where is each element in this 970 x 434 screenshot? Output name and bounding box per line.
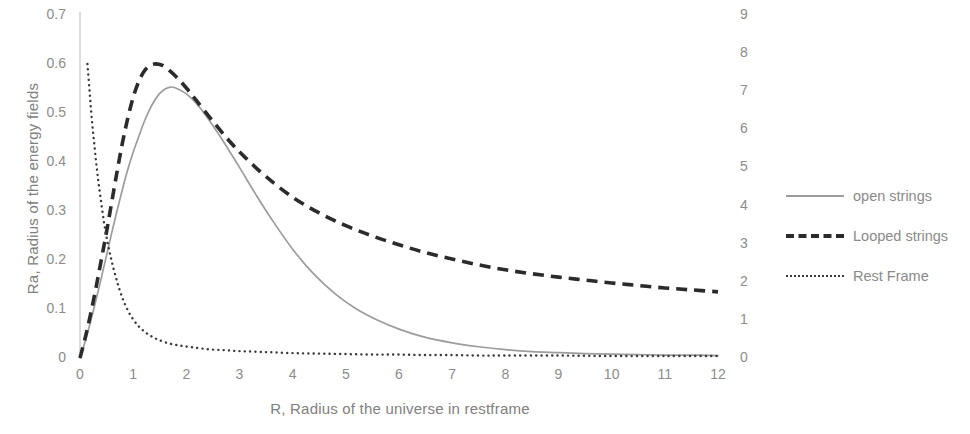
x-tick-12: 12 bbox=[703, 366, 733, 382]
legend-item-rest-frame[interactable]: Rest Frame bbox=[786, 256, 966, 296]
x-tick-9: 9 bbox=[544, 366, 574, 382]
y-tick-right-6: 6 bbox=[740, 120, 780, 136]
series-line-rest-frame bbox=[87, 64, 718, 356]
y-axis-title-left: Ra, Radius of the energy fields bbox=[24, 39, 41, 339]
x-tick-5: 5 bbox=[331, 366, 361, 382]
x-tick-11: 11 bbox=[650, 366, 680, 382]
series-line-open-strings bbox=[80, 87, 718, 358]
y-tick-right-5: 5 bbox=[740, 158, 780, 174]
legend-label-looped-strings: Looped strings bbox=[853, 228, 948, 244]
x-tick-1: 1 bbox=[118, 366, 148, 382]
legend-label-rest-frame: Rest Frame bbox=[853, 268, 929, 284]
x-tick-7: 7 bbox=[437, 366, 467, 382]
y-tick-right-9: 9 bbox=[740, 6, 780, 22]
y-tick-left-2: 0.2 bbox=[26, 251, 66, 267]
chart-legend: open strings Looped strings Rest Frame bbox=[786, 176, 966, 296]
y-tick-right-1: 1 bbox=[740, 311, 780, 327]
x-tick-10: 10 bbox=[597, 366, 627, 382]
y-tick-right-3: 3 bbox=[740, 235, 780, 251]
y-tick-left-0: 0 bbox=[26, 349, 66, 365]
y-tick-right-0: 0 bbox=[740, 349, 780, 365]
chart-figure: Ra, Radius of the energy fields R, Radiu… bbox=[0, 0, 970, 434]
y-tick-right-4: 4 bbox=[740, 197, 780, 213]
y-tick-left-6: 0.6 bbox=[26, 55, 66, 71]
y-tick-right-2: 2 bbox=[740, 273, 780, 289]
legend-line-dashed-icon bbox=[786, 230, 844, 242]
x-tick-0: 0 bbox=[65, 366, 95, 382]
series-line-looped-strings bbox=[80, 64, 718, 358]
y-tick-left-7: 0.7 bbox=[26, 6, 66, 22]
x-tick-8: 8 bbox=[490, 366, 520, 382]
x-tick-3: 3 bbox=[225, 366, 255, 382]
series-layer bbox=[80, 64, 718, 358]
x-axis-title: R, Radius of the universe in restframe bbox=[210, 400, 590, 417]
y-tick-left-1: 0.1 bbox=[26, 300, 66, 316]
legend-item-open-strings[interactable]: open strings bbox=[786, 176, 966, 216]
x-tick-4: 4 bbox=[278, 366, 308, 382]
legend-line-solid-icon bbox=[786, 190, 844, 202]
y-tick-right-8: 8 bbox=[740, 44, 780, 60]
y-tick-left-4: 0.4 bbox=[26, 153, 66, 169]
y-tick-left-5: 0.5 bbox=[26, 104, 66, 120]
x-tick-2: 2 bbox=[171, 366, 201, 382]
y-tick-left-3: 0.3 bbox=[26, 202, 66, 218]
y-tick-right-7: 7 bbox=[740, 82, 780, 98]
legend-item-looped-strings[interactable]: Looped strings bbox=[786, 216, 966, 256]
legend-label-open-strings: open strings bbox=[853, 188, 932, 204]
legend-line-dotted-icon bbox=[786, 270, 844, 282]
x-tick-6: 6 bbox=[384, 366, 414, 382]
